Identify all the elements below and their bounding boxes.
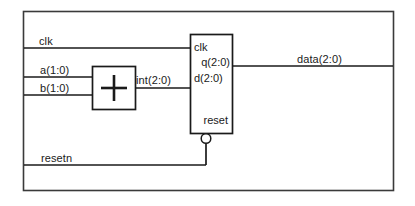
signal-label-resetn: resetn [41, 152, 72, 164]
register-port-q: q(2:0) [190, 56, 230, 68]
reset-inversion-bubble [201, 134, 211, 144]
signal-label-data: data(2:0) [297, 53, 342, 65]
circuit-schematic-svg [0, 0, 415, 206]
register-port-reset: reset [190, 114, 228, 126]
register-port-d: d(2:0) [194, 72, 223, 84]
register-port-clk: clk [194, 41, 207, 53]
circuit-diagram: clk a(1:0) b(1:0) int(2:0) data(2:0) res… [0, 0, 415, 206]
signal-label-int: int(2:0) [136, 74, 171, 86]
signal-label-b: b(1:0) [40, 82, 69, 94]
signal-label-clk: clk [39, 35, 53, 47]
signal-label-a: a(1:0) [40, 64, 69, 76]
